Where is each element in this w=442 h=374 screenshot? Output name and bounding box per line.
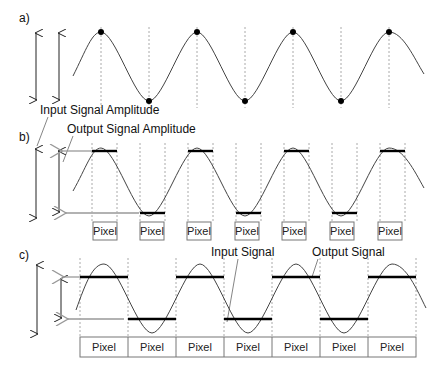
pixel-box: Pixel	[187, 222, 211, 240]
pixel-gridlines	[92, 143, 405, 222]
pixel-box: Pixel	[282, 222, 306, 240]
pixel-cell: Pixel	[236, 341, 260, 353]
pixel-box: Pixel	[140, 222, 164, 240]
pixel-gridlines	[80, 258, 416, 337]
input-amplitude-annotation: Input Signal Amplitude	[40, 103, 160, 117]
input-sine-wave	[73, 32, 424, 101]
output-signal-annotation: Output Signal	[312, 245, 385, 259]
output-amplitude-annotation: Output Signal Amplitude	[67, 122, 196, 136]
panel-b-label: b)	[19, 130, 30, 144]
svg-text:Pixel: Pixel	[235, 225, 259, 237]
input-signal-annotation: Input Signal	[211, 245, 274, 259]
panel-c: c) Input Signal Output Signal Pixel Pixe…	[19, 245, 426, 357]
output-annotation-leader	[63, 136, 73, 162]
pixel-cell: Pixel	[188, 341, 212, 353]
pixel-box: Pixel	[330, 222, 354, 240]
panel-a-label: a)	[19, 11, 30, 25]
pixel-cell: Pixel	[140, 341, 164, 353]
output-annotation-leader	[312, 259, 318, 277]
pixel-cell: Pixel	[332, 341, 356, 353]
pixel-boxes: Pixel Pixel Pixel Pixel Pixel Pixel Pixe…	[93, 222, 402, 240]
pixel-box: Pixel	[378, 222, 402, 240]
svg-text:Pixel: Pixel	[330, 225, 354, 237]
panel-b: Input Signal Amplitude Output Signal Amp…	[19, 103, 424, 240]
panel-c-label: c)	[19, 248, 29, 262]
input-annotation-leader	[37, 117, 48, 146]
svg-text:Pixel: Pixel	[140, 225, 164, 237]
output-signal-levels	[80, 277, 416, 319]
sampling-diagram: a) Input Signal Amplitude Output Signal …	[0, 0, 442, 374]
input-sine-wave	[73, 148, 424, 216]
output-signal-levels	[92, 151, 405, 213]
pixel-cell: Pixel	[380, 341, 404, 353]
input-annotation-leader	[227, 259, 238, 322]
svg-text:Pixel: Pixel	[93, 225, 117, 237]
svg-text:Pixel: Pixel	[282, 225, 306, 237]
svg-text:Pixel: Pixel	[187, 225, 211, 237]
pixel-cell: Pixel	[92, 341, 116, 353]
pixel-row: Pixel Pixel Pixel Pixel Pixel Pixel Pixe…	[80, 337, 416, 357]
pixel-box: Pixel	[93, 222, 117, 240]
pixel-cell: Pixel	[284, 341, 308, 353]
svg-text:Pixel: Pixel	[378, 225, 402, 237]
pixel-box: Pixel	[235, 222, 259, 240]
sample-gridlines	[101, 27, 389, 108]
panel-a: a)	[19, 11, 424, 108]
